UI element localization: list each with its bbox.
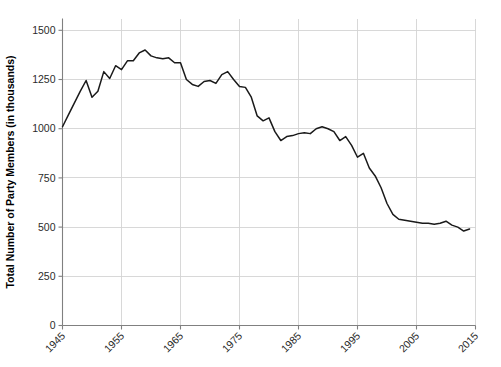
x-tick-label: 1995 [337, 329, 362, 354]
line-chart: 0250500750100012501500 19451955196519751… [0, 0, 501, 367]
x-tick-label: 2005 [396, 329, 421, 354]
y-tick-label: 250 [38, 270, 56, 282]
x-tick-label: 1955 [101, 329, 126, 354]
y-axis-tick-labels: 0250500750100012501500 [32, 24, 56, 331]
y-tick-label: 500 [38, 221, 56, 233]
y-tick-label: 0 [50, 319, 56, 331]
x-tick-label: 2015 [455, 329, 480, 354]
x-axis-tick-labels: 19451955196519751985199520052015 [42, 329, 480, 354]
series-line-total-party-members [63, 50, 470, 231]
y-axis-title: Total Number of Party Members (in thousa… [4, 55, 16, 288]
y-tick-label: 1250 [32, 73, 56, 85]
data-series-layer [63, 50, 470, 231]
y-tick-label: 1000 [32, 122, 56, 134]
x-tick-label: 1985 [278, 329, 303, 354]
y-tick-label: 1500 [32, 24, 56, 36]
chart-container: 0250500750100012501500 19451955196519751… [0, 0, 501, 367]
y-tick-label: 750 [38, 172, 56, 184]
x-tick-label: 1945 [42, 329, 67, 354]
x-tick-label: 1965 [160, 329, 185, 354]
x-tick-label: 1975 [219, 329, 244, 354]
y-axis-title-text: Total Number of Party Members (in thousa… [4, 55, 16, 288]
